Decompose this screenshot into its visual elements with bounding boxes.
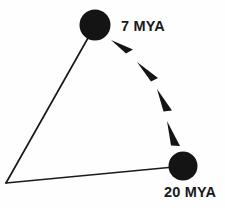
node-20mya-circle[interactable] bbox=[169, 152, 198, 181]
node-20mya-label: 20 MYA bbox=[164, 185, 216, 200]
diagram-nodes bbox=[80, 10, 198, 181]
diagram-graphics bbox=[0, 0, 225, 208]
triangle-edges bbox=[6, 38, 174, 183]
node-7mya-label: 7 MYA bbox=[121, 19, 165, 34]
edge-left-line bbox=[6, 38, 88, 183]
arrowhead-2-icon bbox=[137, 62, 158, 82]
arrowhead-3-icon bbox=[157, 89, 172, 112]
diagram-canvas: 7 MYA 20 MYA bbox=[0, 0, 225, 208]
arrowhead-1-icon bbox=[111, 40, 133, 54]
edge-bottom-line bbox=[6, 167, 174, 183]
migration-arc-arrowheads bbox=[111, 40, 180, 146]
arrowhead-4-icon bbox=[167, 121, 180, 146]
node-7mya-circle[interactable] bbox=[80, 10, 111, 41]
